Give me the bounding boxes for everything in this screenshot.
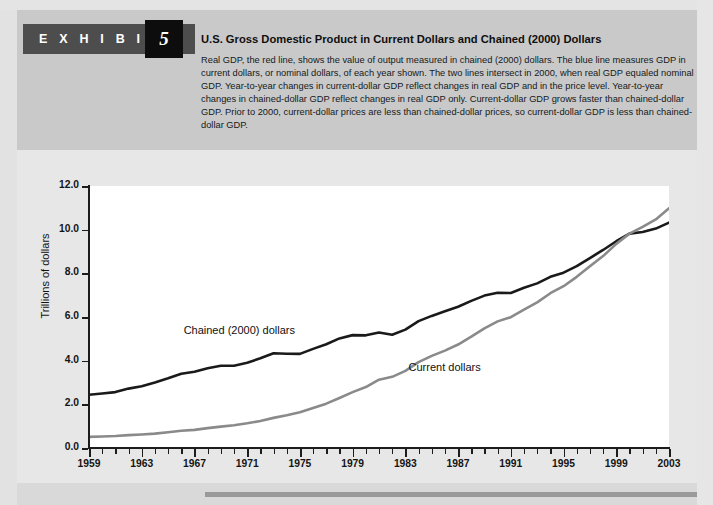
x-tick-minor [313, 449, 314, 454]
x-tick-minor [392, 449, 393, 454]
x-tick-major [194, 449, 196, 457]
x-tick-minor [537, 449, 538, 454]
x-tick-minor [221, 449, 222, 454]
x-tick-minor [590, 449, 591, 454]
x-tick-label: 1983 [385, 458, 425, 469]
x-tick-label: 1991 [491, 458, 531, 469]
y-tick [82, 273, 88, 275]
x-tick-major [616, 449, 618, 457]
y-axis-line [88, 185, 90, 449]
x-tick-minor [129, 449, 130, 454]
x-tick-minor [287, 449, 288, 454]
x-tick-major [511, 449, 513, 457]
x-tick-major [353, 449, 355, 457]
x-tick-minor [366, 449, 367, 454]
x-tick-minor [339, 449, 340, 454]
x-tick-minor [419, 449, 420, 454]
x-tick-minor [379, 449, 380, 454]
y-tick-label: 2.0 [43, 397, 79, 408]
x-tick-major [300, 449, 302, 457]
x-tick-minor [326, 449, 327, 454]
x-tick-minor [629, 449, 630, 454]
page-right-margin [697, 0, 713, 505]
x-tick-minor [432, 449, 433, 454]
x-tick-minor [524, 449, 525, 454]
x-tick-minor [643, 449, 644, 454]
x-tick-major [247, 449, 249, 457]
series-label-current: Current dollars [409, 361, 481, 373]
y-axis-title: Trillions of dollars [39, 176, 51, 376]
x-tick-minor [168, 449, 169, 454]
y-tick [82, 404, 88, 406]
series-label-chained: Chained (2000) dollars [184, 324, 295, 336]
x-tick-major [405, 449, 407, 457]
series-lines [89, 186, 669, 448]
x-tick-minor [577, 449, 578, 454]
x-tick-label: 1959 [69, 458, 109, 469]
x-tick-major [564, 449, 566, 457]
y-tick [82, 448, 88, 450]
x-tick-label: 1967 [174, 458, 214, 469]
x-tick-label: 1999 [596, 458, 636, 469]
x-tick-minor [550, 449, 551, 454]
x-tick-minor [656, 449, 657, 454]
x-tick-minor [181, 449, 182, 454]
x-tick-minor [208, 449, 209, 454]
x-tick-label: 1995 [544, 458, 584, 469]
chart-panel: 0.02.04.06.08.010.012.0 1959196319671971… [17, 150, 697, 483]
exhibit-header: E X H I B I T 5 U.S. Gross Domestic Prod… [17, 10, 697, 150]
y-tick [82, 361, 88, 363]
x-tick-major [89, 449, 91, 457]
bottom-rule [205, 492, 697, 497]
plot-area [89, 186, 669, 448]
x-tick-label: 1987 [438, 458, 478, 469]
x-tick-minor [155, 449, 156, 454]
x-tick-minor [471, 449, 472, 454]
y-tick [82, 186, 88, 188]
y-tick [82, 317, 88, 319]
x-tick-label: 1971 [227, 458, 267, 469]
x-tick-major [669, 449, 671, 457]
x-tick-minor [234, 449, 235, 454]
exhibit-title: U.S. Gross Domestic Product in Current D… [201, 32, 693, 46]
x-tick-minor [115, 449, 116, 454]
x-tick-minor [498, 449, 499, 454]
x-tick-label: 1975 [280, 458, 320, 469]
exhibit-number: 5 [145, 20, 183, 58]
x-tick-label: 1963 [122, 458, 162, 469]
y-tick [82, 230, 88, 232]
x-tick-minor [260, 449, 261, 454]
page-left-margin [0, 0, 17, 505]
series-line [89, 223, 669, 395]
exhibit-caption: Real GDP, the red line, shows the value … [201, 54, 699, 133]
x-tick-minor [603, 449, 604, 454]
page-top-margin [0, 0, 713, 10]
y-tick-label: 0.0 [43, 441, 79, 452]
x-tick-label: 2003 [649, 458, 689, 469]
series-line [89, 208, 669, 437]
x-tick-label: 1979 [333, 458, 373, 469]
x-tick-minor [484, 449, 485, 454]
x-tick-minor [445, 449, 446, 454]
x-tick-minor [102, 449, 103, 454]
x-tick-major [458, 449, 460, 457]
exhibit-page: E X H I B I T 5 U.S. Gross Domestic Prod… [0, 0, 713, 505]
x-tick-minor [274, 449, 275, 454]
x-tick-major [142, 449, 144, 457]
